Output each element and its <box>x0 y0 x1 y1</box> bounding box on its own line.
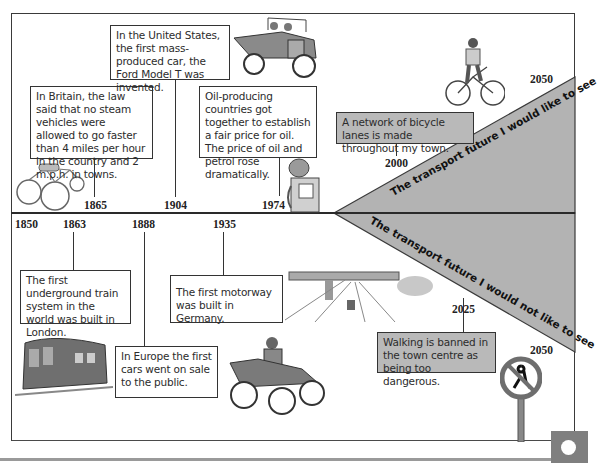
bottom-rule <box>0 458 588 461</box>
event-box-1904: In the United States, the first mass-pro… <box>110 25 230 80</box>
circle-icon <box>561 440 576 455</box>
event-box-1888: In Europe the first cars went on sale to… <box>115 346 218 398</box>
event-text-1888: In Europe the first cars went on sale to… <box>121 350 212 388</box>
event-box-1865: In Britain, the law said that no steam v… <box>30 86 153 159</box>
cyclist-illustration <box>445 37 505 107</box>
corner-badge <box>551 431 588 463</box>
event-box-2000: A network of bicycle lanes is made throu… <box>336 112 474 144</box>
tick-1865 <box>94 159 95 197</box>
tick-1974 <box>279 158 280 196</box>
year-label-1850: 1850 <box>15 218 38 230</box>
event-text-1865: In Britain, the law said that no steam v… <box>36 90 145 180</box>
year-label-1888: 1888 <box>132 218 155 230</box>
year-label-1865: 1865 <box>84 199 107 211</box>
event-box-1974: Oil-producing countries got together to … <box>199 86 317 158</box>
tick-2000 <box>396 144 397 156</box>
year-label-1935: 1935 <box>213 218 236 230</box>
year-label-1863: 1863 <box>63 218 86 230</box>
tick-1935 <box>223 232 224 275</box>
year-label-1974: 1974 <box>262 199 285 211</box>
ford-model-t-illustration <box>232 14 332 84</box>
underground-carriage-illustration <box>15 333 113 399</box>
event-text-1935: The first motorway was built in Germany. <box>176 286 272 324</box>
tick-1863 <box>73 232 74 270</box>
event-box-1935: The first motorway was built in Germany. <box>170 275 283 323</box>
year-label-1904: 1904 <box>164 199 187 211</box>
tick-2025 <box>463 298 464 332</box>
motorway-illustration <box>285 262 435 322</box>
year-label-2050-good: 2050 <box>530 73 553 85</box>
event-box-1863: The first underground train system in th… <box>20 270 131 324</box>
no-pedestrians-sign-illustration <box>500 354 542 442</box>
tick-1904 <box>175 80 176 197</box>
tick-1888 <box>144 232 145 346</box>
year-label-2050-bad: 2050 <box>530 344 553 356</box>
year-label-2000: 2000 <box>385 157 408 169</box>
event-box-2025: Walking is banned in the town centre as … <box>377 332 496 373</box>
early-motor-car-illustration <box>222 333 330 419</box>
petrol-pump-illustration <box>285 158 325 214</box>
